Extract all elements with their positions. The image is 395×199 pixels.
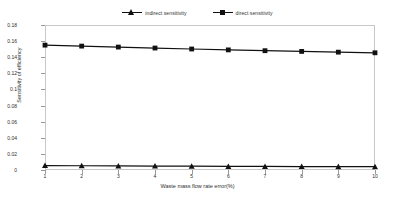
- series-line: [45, 166, 375, 167]
- data-point-square-marker: [79, 44, 84, 49]
- series-layer: [0, 0, 395, 199]
- data-point-square-marker: [373, 50, 378, 55]
- data-point-square-marker: [263, 48, 268, 53]
- data-point-square-marker: [336, 50, 341, 55]
- x-axis-title: Waste mass flow rate error(%): [0, 183, 395, 189]
- series-direct-sensitivity: [43, 43, 378, 55]
- data-point-square-marker: [299, 49, 304, 54]
- chart-figure: indirect sensitivity direct sensitivity …: [0, 0, 395, 199]
- series-indirect-sensitivity: [42, 163, 378, 170]
- series-line: [45, 45, 375, 53]
- data-point-square-marker: [43, 43, 48, 48]
- data-point-square-marker: [189, 47, 194, 52]
- data-point-square-marker: [153, 46, 158, 51]
- data-point-square-marker: [116, 45, 121, 50]
- data-point-square-marker: [226, 47, 231, 52]
